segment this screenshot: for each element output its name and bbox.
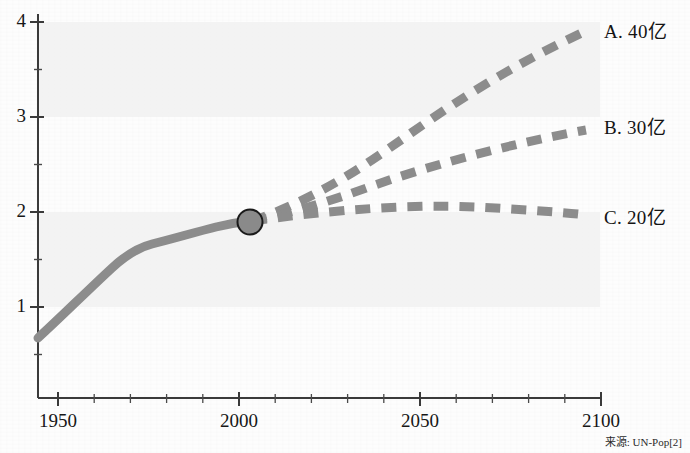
x-tick-label-2100: 2100 xyxy=(566,410,636,432)
projection-line-a xyxy=(252,31,586,221)
projection-line-c xyxy=(252,206,586,221)
y-tick-label-2: 2 xyxy=(2,200,26,222)
x-tick-label-2050: 2050 xyxy=(385,410,455,432)
y-tick-label-4: 4 xyxy=(2,10,26,32)
population-projection-chart: 4 3 2 1 1950 2000 2050 2100 A. 40亿 B. 30… xyxy=(0,0,690,453)
branch-point-marker xyxy=(238,210,263,235)
series-label-c: C. 20亿 xyxy=(604,202,666,229)
historical-line xyxy=(38,221,250,338)
series-label-a: A. 40亿 xyxy=(604,16,667,43)
source-note: 来源: UN-Pop[2] xyxy=(605,433,682,449)
x-tick-label-2000: 2000 xyxy=(204,410,274,432)
y-tick-label-1: 1 xyxy=(2,295,26,317)
y-tick-label-3: 3 xyxy=(2,105,26,127)
series-label-b: B. 30亿 xyxy=(604,112,666,139)
chart-canvas xyxy=(0,0,690,453)
x-tick-label-1950: 1950 xyxy=(23,410,93,432)
